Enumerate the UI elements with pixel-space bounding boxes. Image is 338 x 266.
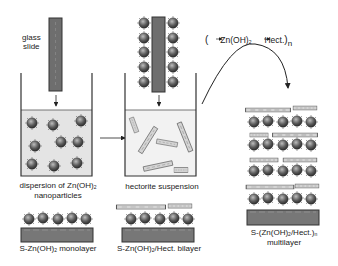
coated-glass-slide-icon: [137, 16, 180, 92]
repeat-cycle-arrow-icon: [202, 44, 288, 104]
monolayer-substrate: [21, 211, 93, 242]
dispersion-label: dispersion of Zn(OH)2 nanoparticles: [18, 181, 98, 200]
multilayer-substrate: [246, 106, 319, 225]
cycle-formula-label: (Zn(OH)2Hect.)n: [205, 34, 292, 48]
bilayer-label: S-Zn(OH)2/Hect. bilayer: [117, 244, 201, 254]
glass-slide-icon: [49, 18, 62, 91]
hectorite-label: hectorite suspension: [125, 182, 199, 191]
bilayer-substrate: [117, 204, 196, 242]
glass-slide-label: glass slide: [22, 33, 41, 51]
monolayer-label: S-Zn(OH)2 monolayer: [18, 244, 98, 254]
multilayer-label: S-(Zn(OH)2/Hect.)n multilayer: [247, 228, 321, 247]
